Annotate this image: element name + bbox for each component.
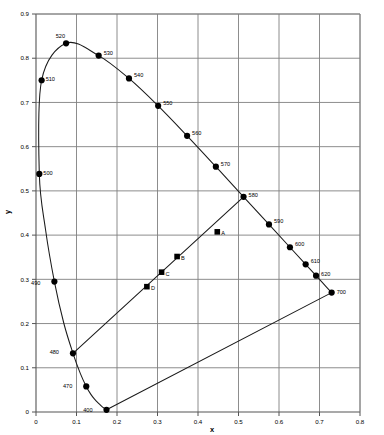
x-tick-label: 0 — [34, 418, 38, 425]
wavelength-marker — [103, 407, 109, 413]
illuminant-label: A — [221, 230, 225, 236]
y-tick-label: 0.4 — [20, 231, 29, 238]
wavelength-label: 700 — [337, 289, 346, 295]
wavelength-marker — [126, 75, 132, 81]
illuminant-marker — [214, 229, 220, 235]
wavelength-label: 470 — [63, 383, 72, 389]
wavelength-marker — [36, 171, 42, 177]
chart-background — [0, 0, 384, 435]
x-tick-label: 0.5 — [234, 418, 243, 425]
y-tick-label: 0.7 — [20, 99, 29, 106]
wavelength-marker — [287, 244, 293, 250]
y-tick-label: 0.8 — [20, 54, 29, 61]
y-tick-label: 0.6 — [20, 143, 29, 150]
wavelength-marker — [303, 261, 309, 267]
wavelength-marker — [266, 221, 272, 227]
wavelength-label: 510 — [46, 76, 55, 82]
wavelength-label: 610 — [311, 258, 320, 264]
x-tick-label: 0.4 — [194, 418, 203, 425]
wavelength-marker — [51, 278, 57, 284]
x-tick-label: 0.7 — [315, 418, 324, 425]
wavelength-label: 550 — [163, 100, 172, 106]
wavelength-label: 480 — [50, 349, 59, 355]
x-tick-label: 0.2 — [113, 418, 122, 425]
wavelength-label: 400 — [83, 407, 92, 413]
wavelength-marker — [83, 383, 89, 389]
wavelength-marker — [96, 53, 102, 59]
illuminant-label: B — [181, 255, 185, 261]
y-tick-label: 0.2 — [20, 320, 29, 327]
wavelength-label: 600 — [295, 241, 304, 247]
x-tick-label: 0.6 — [275, 418, 284, 425]
wavelength-label: 580 — [249, 192, 258, 198]
wavelength-marker — [213, 164, 219, 170]
illuminant-label: D — [151, 285, 155, 291]
wavelength-label: 540 — [134, 72, 143, 78]
wavelength-marker — [63, 40, 69, 46]
wavelength-marker — [240, 194, 246, 200]
y-tick-label: 0.9 — [20, 10, 29, 17]
x-tick-label: 0.8 — [356, 418, 365, 425]
wavelength-label: 490 — [31, 280, 40, 286]
y-tick-label: 0.5 — [20, 187, 29, 194]
illuminant-label: C — [166, 271, 170, 277]
wavelength-label: 590 — [274, 218, 283, 224]
wavelength-label: 500 — [43, 170, 52, 176]
y-tick-label: 0.3 — [20, 276, 29, 283]
y-tick-label: 0 — [26, 408, 30, 415]
wavelength-label: 530 — [104, 50, 113, 56]
wavelength-marker — [39, 77, 45, 83]
wavelength-label: 620 — [321, 271, 330, 277]
illuminant-marker — [144, 284, 150, 290]
x-tick-label: 0.1 — [72, 418, 81, 425]
wavelength-label: 560 — [192, 130, 201, 136]
cie-chromaticity-chart: 00.10.20.30.40.50.60.70.8 00.10.20.30.40… — [0, 0, 384, 435]
wavelength-marker — [70, 350, 76, 356]
wavelength-marker — [313, 273, 319, 279]
wavelength-marker — [184, 133, 190, 139]
illuminant-marker — [174, 254, 180, 260]
wavelength-marker — [329, 290, 335, 296]
wavelength-label: 570 — [221, 161, 230, 167]
wavelength-marker — [155, 103, 161, 109]
wavelength-label: 520 — [56, 33, 65, 39]
y-tick-label: 0.1 — [20, 364, 29, 371]
x-tick-label: 0.3 — [153, 418, 162, 425]
illuminant-marker — [159, 269, 165, 275]
chromaticity-diagram-figure: 00.10.20.30.40.50.60.70.8 00.10.20.30.40… — [0, 0, 384, 435]
